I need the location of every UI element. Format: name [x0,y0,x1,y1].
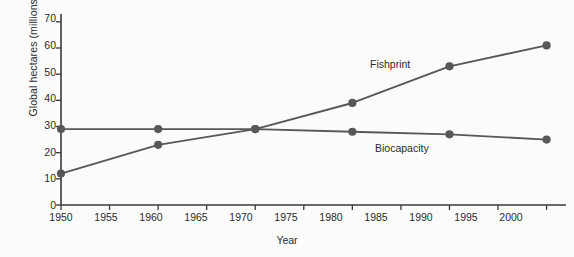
data-point [445,130,453,138]
data-point [154,125,162,133]
plot-area [0,0,574,257]
data-point [154,141,162,149]
data-point [542,41,550,49]
series-lines [61,45,547,173]
data-point [57,125,65,133]
chart-figure: Global hectares (millions) Year 70 60 50… [0,0,574,257]
data-point [542,135,550,143]
data-point [348,99,356,107]
series-label-fishprint: Fishprint [370,58,410,70]
data-point [251,125,259,133]
data-point [445,62,453,70]
series-markers [57,41,551,177]
data-point [348,128,356,136]
series-line-fishprint [61,45,547,173]
data-point [57,170,65,178]
series-line-biocapacity [61,129,547,139]
series-label-biocapacity: Biocapacity [375,142,429,154]
